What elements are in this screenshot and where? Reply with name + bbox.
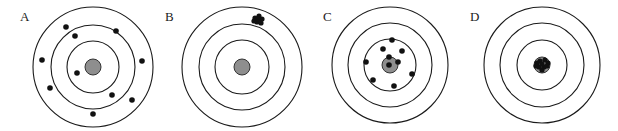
shot-mark	[386, 62, 392, 68]
target-a: A	[20, 7, 153, 127]
shot-mark	[74, 70, 80, 76]
shot-mark	[399, 48, 405, 54]
shot-mark	[39, 57, 45, 63]
shot-mark	[391, 83, 397, 89]
shot-mark	[370, 77, 376, 83]
shot-mark	[533, 63, 538, 68]
shot-mark	[47, 85, 53, 91]
shot-mark	[539, 67, 544, 72]
shot-mark	[109, 92, 115, 98]
target-label: C	[323, 9, 332, 24]
shot-mark	[386, 54, 392, 60]
target-d: D	[470, 7, 600, 123]
targets-canvas: ABCD	[0, 0, 618, 131]
target-label: A	[20, 9, 30, 24]
shot-mark	[129, 97, 135, 103]
target-b: B	[165, 7, 302, 127]
shot-mark	[539, 61, 544, 66]
shot-mark	[63, 24, 69, 30]
target-label: D	[470, 9, 479, 24]
shot-mark	[389, 37, 395, 43]
target-label: B	[165, 9, 174, 24]
shot-mark	[113, 28, 119, 34]
target-diagram-figure: ABCD	[0, 0, 618, 131]
shot-mark	[544, 63, 549, 68]
shot-mark	[409, 71, 415, 77]
shot-mark	[363, 59, 369, 65]
bullseye	[234, 59, 250, 75]
target-c: C	[323, 7, 448, 123]
shot-mark	[255, 16, 260, 21]
shot-mark	[380, 46, 386, 52]
shot-mark	[90, 111, 96, 117]
shot-mark	[139, 58, 145, 64]
shot-mark	[395, 59, 401, 65]
shot-mark	[72, 33, 78, 39]
bullseye	[85, 59, 101, 75]
